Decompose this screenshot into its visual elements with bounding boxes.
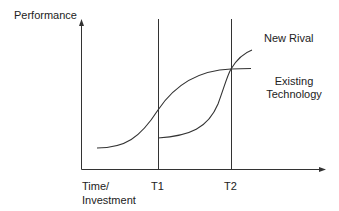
new-rival-label: New Rival bbox=[264, 32, 314, 45]
t2-label: T2 bbox=[224, 180, 237, 193]
x-axis-label-line1: Time/ bbox=[82, 180, 109, 193]
y-axis-arrow-icon bbox=[79, 19, 84, 26]
existing-technology-label-line1: Existing bbox=[259, 75, 329, 88]
existing-technology-label-line2: Technology bbox=[259, 88, 329, 101]
x-axis-label-line2: Investment bbox=[82, 194, 136, 207]
x-axis-arrow-icon bbox=[319, 167, 326, 172]
y-axis-label: Performance bbox=[14, 9, 77, 22]
new-rival-curve bbox=[158, 50, 252, 138]
t1-label: T1 bbox=[151, 180, 164, 193]
